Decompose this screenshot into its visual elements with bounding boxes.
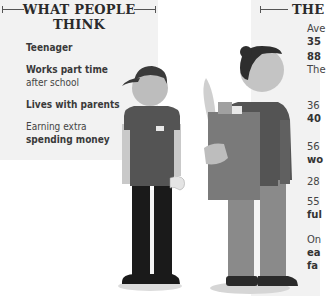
- right-item-3-line2: 40: [307, 112, 321, 125]
- right-item-6-line1: 55: [307, 195, 322, 208]
- item-spending-money-normal: Earning extra: [26, 120, 110, 133]
- right-item-7-line1: On: [307, 233, 321, 246]
- right-item-6-line2: ful: [307, 208, 322, 221]
- right-item-7: Oneafa: [307, 233, 321, 272]
- right-item-1: Ave35: [307, 22, 325, 48]
- left-heading-line1: WHAT PEOPLE: [0, 2, 158, 17]
- right-item-3: 3640: [307, 99, 321, 125]
- right-item-1-line2: 35: [307, 35, 325, 48]
- teenager-figure-icon: [110, 60, 190, 296]
- right-item-3-line1: 36: [307, 99, 321, 112]
- left-heading: WHAT PEOPLE THINK: [0, 2, 158, 32]
- right-item-7-line2: ea: [307, 246, 321, 259]
- adult-woman-figure-icon: [180, 40, 300, 296]
- item-spending-money: Earning extra spending money: [26, 120, 110, 146]
- item-works-part-time: Works part time after school: [26, 63, 108, 89]
- right-item-4-line2: wo: [307, 153, 323, 166]
- right-heading: THE: [292, 2, 324, 17]
- left-heading-line2: THINK: [0, 17, 158, 32]
- right-item-2: 88The: [307, 50, 326, 76]
- right-item-4: 56wo: [307, 140, 323, 166]
- right-item-2-line1: 88: [307, 50, 326, 63]
- item-works-part-time-normal: after school: [26, 76, 108, 89]
- item-teenager: Teenager: [26, 41, 72, 54]
- right-item-7-line3: fa: [307, 259, 321, 272]
- right-item-4-line1: 56: [307, 140, 323, 153]
- item-lives-with-parents: Lives with parents: [26, 98, 120, 111]
- right-item-1-line1: Ave: [307, 22, 325, 35]
- heading-rule-right-panel: [260, 9, 288, 10]
- right-item-5: 28: [307, 175, 320, 188]
- item-spending-money-bold: spending money: [26, 133, 110, 146]
- item-works-part-time-bold: Works part time: [26, 63, 108, 76]
- right-item-2-line2: The: [307, 63, 326, 76]
- right-item-6: 55ful: [307, 195, 322, 221]
